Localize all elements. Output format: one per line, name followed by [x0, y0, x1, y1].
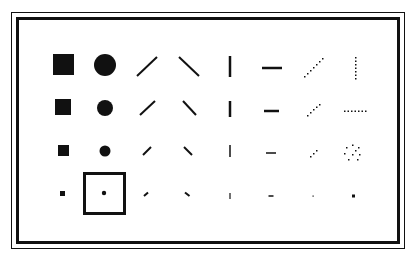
dotted-diagonal-brush-icon	[307, 104, 321, 117]
brush-palette-grid	[0, 0, 414, 258]
brush-dotted-vertical[interactable]	[355, 57, 357, 80]
brush-square-large[interactable]	[53, 54, 74, 75]
brush-square-medium[interactable]	[55, 99, 71, 115]
dotted-diagonal-brush-icon	[310, 150, 318, 158]
brush-slash-large[interactable]	[137, 57, 157, 76]
brush-dotted-diagonal-small[interactable]	[310, 150, 318, 158]
brush-round-tiny-selected[interactable]	[85, 174, 125, 214]
brush-dotted-diagonal-medium[interactable]	[307, 104, 321, 117]
square-brush-icon	[58, 145, 69, 156]
brush-spray[interactable]	[344, 145, 361, 161]
square-dot-brush-icon	[352, 195, 355, 198]
backslash-brush-icon	[184, 147, 192, 155]
brush-backslash-small[interactable]	[184, 147, 192, 155]
backslash-brush-icon	[185, 193, 190, 197]
square-brush-icon	[60, 191, 65, 196]
brush-round-small[interactable]	[100, 146, 111, 157]
backslash-brush-icon	[179, 57, 199, 76]
round-brush-icon	[102, 191, 106, 195]
spray-brush-icon	[344, 145, 361, 161]
dot-brush-icon	[313, 196, 314, 197]
brush-backslash-medium[interactable]	[183, 101, 196, 115]
brush-square-dot[interactable]	[352, 195, 355, 198]
slash-brush-icon	[143, 147, 151, 155]
round-brush-icon	[94, 54, 116, 76]
brush-square-tiny[interactable]	[60, 191, 65, 196]
brush-dotted-diagonal-large[interactable]	[304, 58, 324, 78]
round-brush-icon	[100, 146, 111, 157]
brush-round-large[interactable]	[94, 54, 116, 76]
brush-slash-medium[interactable]	[140, 101, 155, 115]
dotted-diagonal-brush-icon	[304, 58, 324, 78]
slash-brush-icon	[144, 193, 148, 197]
brush-dot-tiny[interactable]	[313, 196, 314, 197]
dotted-horizontal-brush-icon	[344, 111, 367, 113]
brush-backslash-tiny[interactable]	[185, 193, 190, 197]
slash-brush-icon	[137, 57, 157, 76]
slash-brush-icon	[140, 101, 155, 115]
brush-round-medium[interactable]	[97, 100, 113, 116]
brush-backslash-large[interactable]	[179, 57, 199, 76]
brush-slash-small[interactable]	[143, 147, 151, 155]
backslash-brush-icon	[183, 101, 196, 115]
dotted-vertical-brush-icon	[355, 57, 357, 80]
square-brush-icon	[55, 99, 71, 115]
brush-square-small[interactable]	[58, 145, 69, 156]
brush-dotted-horizontal[interactable]	[344, 111, 367, 113]
brush-slash-tiny[interactable]	[144, 193, 148, 197]
square-brush-icon	[53, 54, 74, 75]
round-brush-icon	[97, 100, 113, 116]
